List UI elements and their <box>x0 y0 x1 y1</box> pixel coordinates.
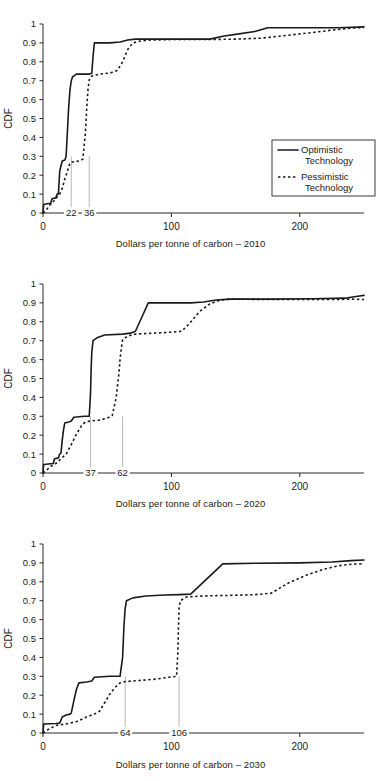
y-tick-label: 0.4 <box>23 392 36 403</box>
x-axis-caption-2020: Dollars per tonne of carbon – 2020 <box>0 498 381 509</box>
legend-label-line2: Technology <box>305 155 353 166</box>
y-tick-label: 0.9 <box>23 37 36 48</box>
annotation-label: 106 <box>171 727 187 738</box>
y-tick-label: 0.5 <box>23 633 36 644</box>
x-axis-caption-2010: Dollars per tonne of carbon – 2010 <box>0 238 381 249</box>
y-tick-label: 0.2 <box>23 170 36 181</box>
series-line-optimistic <box>43 560 364 733</box>
y-tick-label: 0 <box>31 727 36 738</box>
y-axis-title: CDF <box>3 628 14 649</box>
cdf-plot-2010: 00.10.20.30.40.50.60.70.80.91CDF01002002… <box>0 0 381 238</box>
y-tick-label: 0 <box>31 467 36 478</box>
y-tick-label: 0.3 <box>23 411 36 422</box>
y-tick-label: 0.4 <box>23 132 36 143</box>
y-axis-title: CDF <box>3 108 14 129</box>
x-tick-label: 200 <box>291 481 308 492</box>
x-tick-label: 0 <box>40 741 46 752</box>
legend-label-line1: Optimistic <box>301 144 343 155</box>
y-tick-label: 0.8 <box>23 316 36 327</box>
annotation-label: 62 <box>117 467 128 478</box>
y-tick-label: 0.3 <box>23 151 36 162</box>
y-tick-label: 0.2 <box>23 690 36 701</box>
chart-panel-2010: 00.10.20.30.40.50.60.70.80.91CDF01002002… <box>0 0 381 260</box>
y-tick-label: 0.9 <box>23 297 36 308</box>
cdf-figure: 00.10.20.30.40.50.60.70.80.91CDF01002002… <box>0 0 381 781</box>
legend-label-line2: Technology <box>305 182 353 193</box>
y-tick-label: 0.6 <box>23 354 36 365</box>
x-tick-label: 100 <box>163 221 180 232</box>
y-tick-label: 0.7 <box>23 595 36 606</box>
y-tick-label: 0.5 <box>23 113 36 124</box>
y-tick-label: 0.9 <box>23 557 36 568</box>
annotation-label: 22 <box>66 207 77 218</box>
x-tick-label: 100 <box>163 481 180 492</box>
y-axis-title: CDF <box>3 368 14 389</box>
x-axis-caption-2030: Dollars per tonne of carbon – 2030 <box>0 759 381 770</box>
legend: OptimisticTechnologyPessimisticTechnolog… <box>272 140 375 196</box>
annotation-label: 36 <box>84 207 95 218</box>
y-tick-label: 0.1 <box>23 189 36 200</box>
x-tick-label: 0 <box>40 221 46 232</box>
cdf-plot-2030: 00.10.20.30.40.50.60.70.80.91CDF01002006… <box>0 520 381 759</box>
y-tick-label: 0.6 <box>23 614 36 625</box>
annotation-label: 64 <box>120 727 131 738</box>
y-tick-label: 0 <box>31 207 36 218</box>
y-tick-label: 1 <box>31 278 36 289</box>
y-tick-label: 1 <box>31 18 36 29</box>
series-line-pessimistic <box>43 564 364 733</box>
y-tick-label: 0.4 <box>23 652 36 663</box>
y-tick-label: 0.5 <box>23 373 36 384</box>
cdf-plot-2020: 00.10.20.30.40.50.60.70.80.91CDF01002003… <box>0 260 381 498</box>
legend-label-line1: Pessimistic <box>301 171 349 182</box>
y-tick-label: 0.3 <box>23 671 36 682</box>
y-tick-label: 0.7 <box>23 75 36 86</box>
y-tick-label: 0.6 <box>23 94 36 105</box>
y-tick-label: 0.2 <box>23 430 36 441</box>
y-tick-label: 0.1 <box>23 449 36 460</box>
y-tick-label: 0.8 <box>23 56 36 67</box>
annotation-label: 37 <box>85 467 96 478</box>
y-tick-label: 0.7 <box>23 335 36 346</box>
chart-panel-2020: 00.10.20.30.40.50.60.70.80.91CDF01002003… <box>0 260 381 520</box>
x-tick-label: 0 <box>40 481 46 492</box>
series-line-optimistic <box>43 295 364 473</box>
x-tick-label: 200 <box>291 221 308 232</box>
chart-panel-2030: 00.10.20.30.40.50.60.70.80.91CDF01002006… <box>0 520 381 781</box>
y-tick-label: 0.8 <box>23 576 36 587</box>
x-tick-label: 100 <box>163 741 180 752</box>
y-tick-label: 1 <box>31 538 36 549</box>
x-tick-label: 200 <box>291 741 308 752</box>
y-tick-label: 0.1 <box>23 709 36 720</box>
